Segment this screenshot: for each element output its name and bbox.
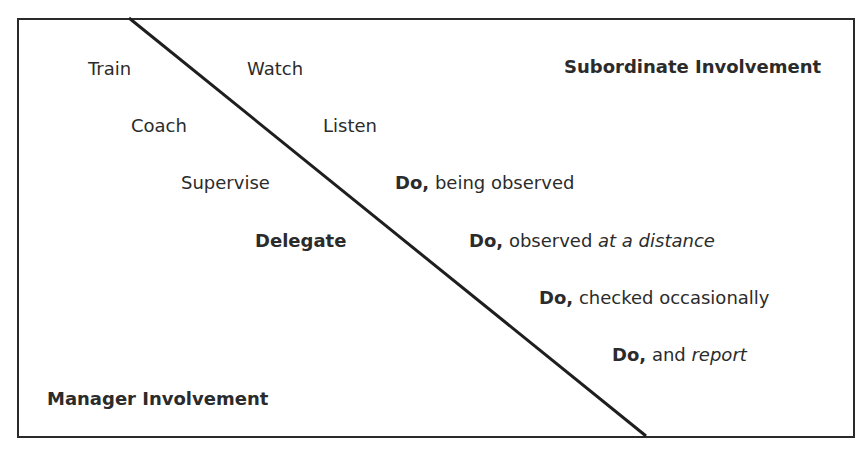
label-coach: Coach [131,117,187,135]
label-do-checked-occasionally: Do, checked occasionally [539,289,769,307]
label-train: Train [88,60,131,78]
label-delegate: Delegate [255,232,346,250]
do-rest: and [646,344,691,365]
label-do-being-observed: Do, being observed [395,174,574,192]
do-emphasis: report [691,344,746,365]
do-emphasis: at a distance [598,230,715,251]
do-rest: being observed [429,172,574,193]
do-lead: Do, [539,287,573,308]
subordinate-involvement-heading: Subordinate Involvement [564,58,821,76]
label-do-and-report: Do, and report [612,346,747,364]
manager-involvement-heading: Manager Involvement [47,390,268,408]
do-lead: Do, [469,230,503,251]
label-watch: Watch [247,60,303,78]
do-rest: observed [503,230,598,251]
do-lead: Do, [395,172,429,193]
do-lead: Do, [612,344,646,365]
label-do-observed-distance: Do, observed at a distance [469,232,715,250]
label-listen: Listen [323,117,377,135]
label-supervise: Supervise [181,174,270,192]
do-rest: checked occasionally [573,287,769,308]
